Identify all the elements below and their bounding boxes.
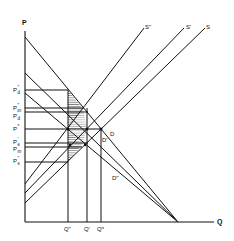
svg-text:P: P [13,139,17,145]
svg-text:*: * [18,124,20,129]
quantity-label-Q-star: Q* [97,226,105,232]
svg-text:P: P [13,105,17,111]
quantity-label-Q-prime: Q' [84,226,90,232]
demand-label-D: D [110,131,115,137]
svg-text:P: P [13,126,17,132]
quantity-label-Q-double-prime: Q" [64,226,71,232]
svg-text:d: d [18,90,21,95]
supply-curve-S-prime [25,28,184,193]
supply-curve-S-double-prime [25,28,144,184]
intersection-point-lower-right [84,144,86,146]
supply-label-S-prime: S' [186,24,191,30]
quantity-axis-label: Q [217,218,223,226]
svg-text:P: P [13,113,17,119]
demand-label-D-prime: D' [102,137,107,143]
svg-text:d: d [18,116,21,121]
demand-label-D-double-prime: D" [112,175,118,181]
svg-text:P: P [13,158,17,164]
svg-text:P: P [13,87,17,93]
svg-text:s: s [18,161,21,166]
price-label-Pm-prime: P ' m [13,144,22,154]
price-axis-label: P [22,19,27,26]
equilibrium-point-Q-double-prime [67,128,70,131]
price-label-P-star: P * [13,124,20,132]
supply-label-S: S [206,24,210,30]
supply-demand-diagram: P Q S" S' S D D' D" P " d P " m P ' d P … [0,0,234,241]
svg-text:P: P [13,146,17,152]
svg-text:m: m [18,149,22,154]
price-label-Pd-double-prime: P " d [13,85,21,95]
intersection-point-lower-left [69,144,71,146]
equilibrium-point-Q-prime [86,128,89,131]
price-label-Ps-double-prime: P " s [13,156,21,166]
equilibrium-point-Q-star [100,128,103,131]
supply-label-S-double-prime: S" [145,24,151,30]
